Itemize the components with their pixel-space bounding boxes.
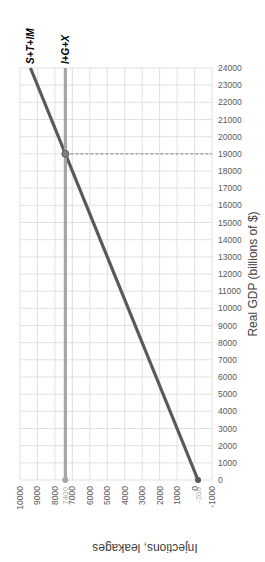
y-tick-label: 16000 xyxy=(218,200,242,210)
y-tick-label: 8000 xyxy=(218,338,237,348)
x-tick-label: 10000 xyxy=(15,486,25,510)
y-tick-label: 2000 xyxy=(218,441,237,451)
series-label: S+T+IM xyxy=(25,28,36,64)
y-tick-label: 20000 xyxy=(218,132,242,142)
data-label: 7400 xyxy=(61,486,70,504)
x-tick-label: 5000 xyxy=(102,486,112,505)
y-tick-label: 13000 xyxy=(218,252,242,262)
gridlines xyxy=(20,68,212,480)
chart: 1000090008000700060005000400030002000100… xyxy=(0,0,265,562)
x-tick-label: 1000 xyxy=(172,486,182,505)
x-axis-title: Injections, leakages xyxy=(92,541,197,555)
y-tick-label: 9000 xyxy=(218,321,237,331)
series-start-marker xyxy=(62,477,68,483)
y-tick-label: 12000 xyxy=(218,269,242,279)
y-tick-label: 21000 xyxy=(218,115,242,125)
data-label: -200 xyxy=(194,486,203,503)
y-tick-label: 6000 xyxy=(218,372,237,382)
series-start-marker xyxy=(195,477,201,483)
y-tick-label: 14000 xyxy=(218,235,242,245)
y-tick-label: 24000 xyxy=(218,63,242,73)
y-tick-label: 5000 xyxy=(218,389,237,399)
x-tick-label: 8000 xyxy=(50,486,60,505)
y-tick-label: 18000 xyxy=(218,166,242,176)
x-tick-label: 3000 xyxy=(137,486,147,505)
y-tick-label: 19000 xyxy=(218,149,242,159)
x-axis-ticks: 1000090008000700060005000400030002000100… xyxy=(15,486,217,510)
series-label: I+G+X xyxy=(60,34,71,64)
x-tick-label: 4000 xyxy=(120,486,130,505)
series-lines: S+T+IM-200I+G+X7400 xyxy=(25,28,212,505)
x-tick-label: 2000 xyxy=(155,486,165,505)
y-tick-label: 1000 xyxy=(218,458,237,468)
x-tick-label: 6000 xyxy=(85,486,95,505)
y-tick-label: 11000 xyxy=(218,286,241,296)
y-axis-title: Real GDP (billions of $) xyxy=(246,211,260,336)
y-tick-label: 17000 xyxy=(218,183,242,193)
y-tick-label: 10000 xyxy=(218,303,242,313)
y-tick-label: 15000 xyxy=(218,218,242,228)
y-tick-label: 4000 xyxy=(218,406,237,416)
y-tick-label: 23000 xyxy=(218,80,242,90)
y-axis-ticks: 0100020003000400050006000700080009000100… xyxy=(218,63,242,485)
x-tick-label: -1000 xyxy=(207,486,217,508)
x-tick-label: 9000 xyxy=(32,486,42,505)
y-tick-label: 0 xyxy=(218,475,223,485)
y-tick-label: 3000 xyxy=(218,424,237,434)
y-tick-label: 22000 xyxy=(218,97,242,107)
y-tick-label: 7000 xyxy=(218,355,237,365)
